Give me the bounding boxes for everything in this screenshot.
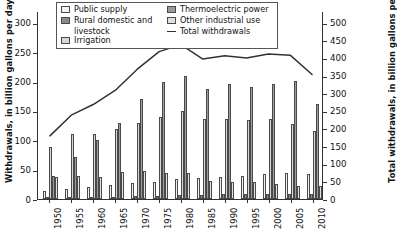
legend-color-swatch-icon — [61, 6, 70, 13]
legend-item-label: Total withdrawals — [180, 27, 250, 36]
bar — [77, 176, 80, 199]
x-tick-label: 1975 — [163, 208, 173, 229]
x-tick-label: 1960 — [97, 208, 107, 229]
x-tick-mark — [49, 200, 50, 203]
bar — [253, 182, 256, 199]
x-tick-mark — [115, 200, 116, 203]
legend-item-label: Rural domestic and — [74, 16, 152, 25]
y-tick-label-right: 300 — [330, 90, 346, 99]
y-axis-title-right: Total withdrawals, in billion gallons pe… — [387, 33, 397, 183]
bar — [99, 177, 102, 199]
legend-column-left: Public supplyRural domestic andlivestock… — [61, 5, 169, 47]
bar — [319, 186, 322, 200]
legend-item: Thermoelectric power — [167, 5, 279, 15]
y-tick-mark-right — [323, 129, 327, 130]
y-tick-label-left: 0 — [1, 196, 31, 205]
x-tick-mark — [269, 200, 270, 203]
legend-item: Rural domestic and — [61, 16, 169, 26]
bar — [143, 171, 146, 199]
y-tick-label-right: 450 — [330, 37, 346, 46]
x-tick-label: 1995 — [251, 208, 261, 229]
x-tick-mark — [225, 200, 226, 203]
y-tick-mark-right — [323, 59, 327, 60]
x-tick-label: 1970 — [141, 208, 151, 229]
bar — [294, 81, 297, 199]
chart-legend: Public supplyRural domestic andlivestock… — [56, 2, 278, 49]
y-tick-mark-right — [323, 41, 327, 42]
bar — [275, 184, 278, 199]
legend-item-label: Other industrial use — [180, 16, 260, 25]
legend-color-swatch-icon — [61, 17, 70, 24]
y-tick-mark-right — [323, 24, 327, 25]
bar-group — [285, 12, 300, 199]
y-tick-mark-right — [323, 182, 327, 183]
bar — [55, 177, 58, 199]
y-tick-label-right: 0 — [330, 196, 335, 205]
x-tick-label: 1985 — [207, 208, 217, 229]
x-tick-mark — [291, 200, 292, 203]
legend-item: Irrigation — [61, 36, 169, 46]
x-tick-label: 1965 — [119, 208, 129, 229]
legend-item: Public supply — [61, 5, 169, 15]
y-tick-label-left: 150 — [1, 107, 31, 116]
y-tick-mark-right — [323, 94, 327, 95]
y-tick-label-right: 400 — [330, 54, 346, 63]
x-tick-mark — [159, 200, 160, 203]
x-tick-label: 1950 — [53, 208, 63, 229]
legend-item-label: Public supply — [74, 5, 127, 14]
legend-item-label: Thermoelectric power — [180, 5, 269, 14]
y-tick-label-right: 350 — [330, 72, 346, 81]
y-tick-mark-right — [323, 147, 327, 148]
x-tick-label: 2010 — [317, 208, 327, 229]
y-tick-label-left: 300 — [1, 19, 31, 28]
x-tick-label: 1990 — [229, 208, 239, 229]
x-tick-mark — [181, 200, 182, 203]
y-tick-mark-right — [323, 77, 327, 78]
bar — [231, 182, 234, 199]
bar — [209, 181, 212, 199]
y-tick-mark-right — [323, 112, 327, 113]
y-tick-label-right: 200 — [330, 125, 346, 134]
y-tick-label-left: 250 — [1, 49, 31, 58]
x-tick-label: 2000 — [273, 208, 283, 229]
y-tick-mark-right — [323, 200, 327, 201]
x-tick-label: 1980 — [185, 208, 195, 229]
y-tick-label-left: 100 — [1, 137, 31, 146]
y-tick-mark-left — [33, 200, 37, 201]
y-tick-label-left: 50 — [1, 166, 31, 175]
x-tick-mark — [203, 200, 204, 203]
x-tick-mark — [93, 200, 94, 203]
legend-color-swatch-icon — [167, 6, 176, 13]
x-tick-label: 2005 — [295, 208, 305, 229]
x-tick-mark — [137, 200, 138, 203]
y-tick-label-left: 200 — [1, 78, 31, 87]
bar — [165, 173, 168, 199]
bar — [121, 172, 124, 199]
legend-color-swatch-icon — [167, 17, 176, 24]
bar — [187, 173, 190, 199]
y-tick-label-right: 500 — [330, 19, 346, 28]
legend-line-swatch-icon — [167, 28, 176, 35]
y-tick-label-right: 150 — [330, 143, 346, 152]
legend-item: Other industrial use — [167, 16, 279, 26]
x-tick-mark — [313, 200, 314, 203]
x-tick-mark — [247, 200, 248, 203]
bar — [272, 84, 275, 199]
y-tick-label-right: 100 — [330, 160, 346, 169]
y-tick-label-right: 50 — [330, 178, 341, 187]
y-tick-label-right: 250 — [330, 107, 346, 116]
y-tick-mark-right — [323, 165, 327, 166]
legend-item-label: Irrigation — [74, 36, 111, 45]
legend-column-right: Thermoelectric powerOther industrial use… — [167, 5, 279, 38]
legend-item: Total withdrawals — [167, 27, 279, 37]
x-tick-mark — [71, 200, 72, 203]
x-tick-label: 1955 — [75, 208, 85, 229]
bar — [297, 186, 300, 200]
legend-color-swatch-icon — [61, 37, 70, 44]
bar-group — [307, 12, 322, 199]
